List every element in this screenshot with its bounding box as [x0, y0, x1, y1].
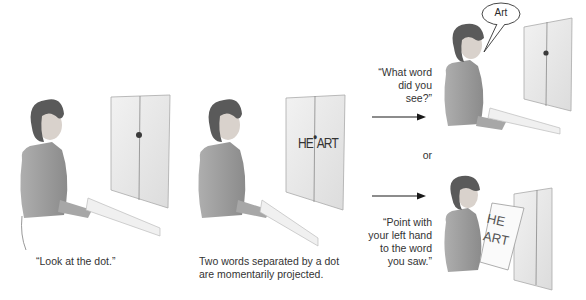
left-word: HE	[298, 134, 313, 151]
panel-3b-screen	[514, 188, 552, 290]
right-word: ART	[317, 134, 338, 151]
speech-bubble-text: Art	[491, 7, 511, 18]
panel-2-desk	[260, 200, 318, 246]
panel-3b-prompt: “Point with your left hand to the word y…	[360, 216, 432, 268]
projected-word: HE●ART	[298, 134, 338, 151]
panel-3a-screen	[524, 18, 572, 111]
panel-2-screen	[286, 95, 345, 210]
fixation-dot	[136, 132, 142, 138]
or-label: or	[370, 149, 432, 162]
panel-1-desk	[86, 198, 160, 236]
panel-3b-figure	[444, 176, 481, 272]
panel-3a-prompt: “What word did you see?”	[370, 66, 432, 105]
panel-2-caption: Two words separated by a dot are momenta…	[199, 255, 339, 281]
panel-1-caption: “Look at the dot.”	[36, 255, 115, 268]
fixation-dot	[543, 50, 548, 55]
panel-1-screen	[111, 95, 170, 208]
panel-2-figure	[198, 99, 270, 218]
panel-1-figure	[20, 99, 92, 250]
arrow-to-panel-3b	[372, 193, 426, 200]
arrow-to-panel-3a	[372, 114, 426, 121]
